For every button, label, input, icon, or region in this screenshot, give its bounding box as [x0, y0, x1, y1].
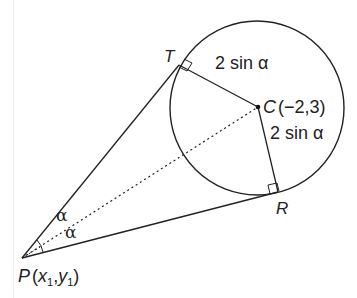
- dotted-line-pc: [22, 107, 258, 258]
- label-p-name: P: [18, 266, 30, 286]
- radius-cr: [258, 107, 278, 192]
- label-p-close-paren: ): [73, 266, 79, 286]
- label-t: T: [164, 47, 176, 66]
- label-angle-lower: α: [65, 222, 77, 242]
- label-cr-length: 2 sin α: [270, 123, 323, 143]
- tangent-pr: [22, 192, 278, 258]
- label-r: R: [276, 199, 288, 218]
- geometry-figure: T 2 sin α C (−2,3) 2 sin α R α α P(x1,y1…: [0, 0, 357, 298]
- label-p: P(x1,y1): [18, 266, 79, 288]
- label-c: C: [263, 97, 277, 117]
- centre-point-c: [256, 105, 261, 110]
- tangent-pt: [22, 65, 179, 258]
- cropped-text-fragment: [0, 0, 357, 2]
- label-c-coords: (−2,3): [278, 97, 326, 117]
- page-edge: [13, 0, 14, 298]
- diagram-canvas: T 2 sin α C (−2,3) 2 sin α R α α P(x1,y1…: [0, 0, 357, 298]
- label-ct-length: 2 sin α: [215, 53, 268, 73]
